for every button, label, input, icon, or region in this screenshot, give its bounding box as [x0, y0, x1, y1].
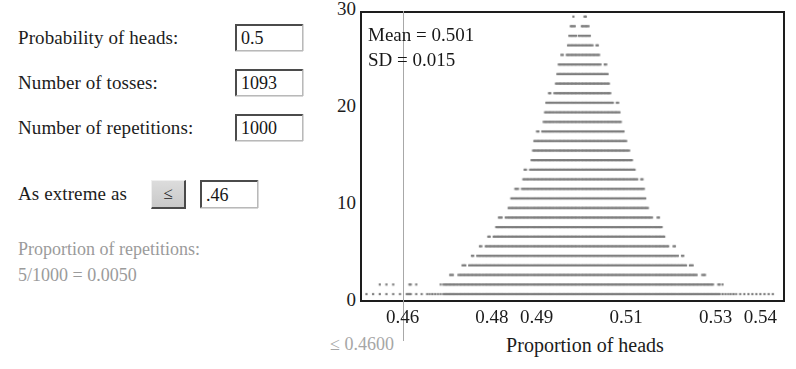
x-axis-tick-label: 0.46	[386, 306, 419, 328]
number-of-repetitions-input[interactable]: 1000	[235, 114, 303, 141]
as-extreme-as-label: As extreme as	[18, 183, 127, 205]
number-of-repetitions-label: Number of repetitions:	[18, 117, 193, 139]
x-axis-tick-label: 0.51	[610, 306, 643, 328]
proportion-result-label: Proportion of repetitions:	[18, 236, 200, 262]
control-panel: Probability of heads: 0.5 Number of toss…	[0, 0, 330, 369]
x-axis-tick-label: 0.49	[520, 306, 553, 328]
proportion-result: Proportion of repetitions: 5/1000 = 0.00…	[18, 236, 200, 288]
comparison-operator-button[interactable]: ≤	[151, 180, 186, 209]
x-axis-tick-label: 0.53	[699, 306, 732, 328]
x-axis-title: Proportion of heads	[506, 334, 664, 357]
plot-frame[interactable]	[360, 11, 785, 302]
as-extreme-as-input[interactable]: .46	[200, 180, 258, 208]
cutoff-readout: ≤ 0.4600	[330, 334, 394, 355]
probability-of-heads-row: Probability of heads:	[18, 24, 178, 51]
x-axis-tick-label: 0.54	[744, 306, 777, 328]
probability-of-heads-input[interactable]: 0.5	[235, 24, 303, 51]
probability-of-heads-label: Probability of heads:	[18, 27, 178, 49]
number-of-tosses-row: Number of tosses:	[18, 69, 158, 96]
x-axis-tick-label: 0.48	[475, 306, 508, 328]
number-of-tosses-label: Number of tosses:	[18, 72, 158, 94]
as-extreme-as-row: As extreme as	[18, 180, 127, 208]
simulation-applet: Probability of heads: 0.5 Number of toss…	[0, 0, 796, 369]
proportion-result-value: 5/1000 = 0.0050	[18, 262, 200, 288]
dotplot-canvas	[362, 13, 783, 300]
number-of-repetitions-row: Number of repetitions:	[18, 114, 193, 141]
number-of-tosses-input[interactable]: 1093	[235, 69, 303, 96]
